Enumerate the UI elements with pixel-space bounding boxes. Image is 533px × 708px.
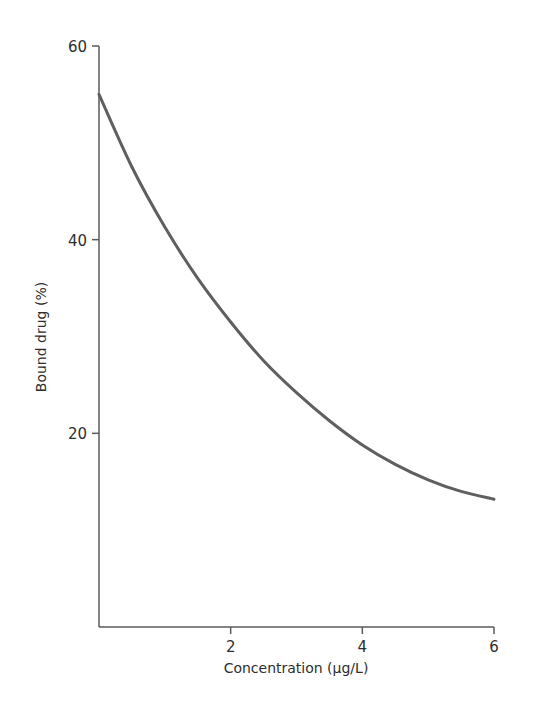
x-tick-label: 6	[489, 638, 499, 656]
y-tick-label: 60	[68, 38, 87, 56]
ticks: 204060246	[68, 38, 499, 656]
x-tick-label: 2	[226, 638, 236, 656]
x-tick-label: 4	[358, 638, 368, 656]
y-axis-title: Bound drug (%)	[33, 282, 49, 392]
y-tick-label: 40	[68, 232, 87, 250]
axes	[99, 46, 494, 627]
bound-drug-curve	[99, 94, 494, 499]
x-axis-title: Concentration (µg/L)	[224, 660, 369, 676]
line-chart: 204060246 Concentration (µg/L) Bound dru…	[0, 0, 533, 708]
y-tick-label: 20	[68, 425, 87, 443]
